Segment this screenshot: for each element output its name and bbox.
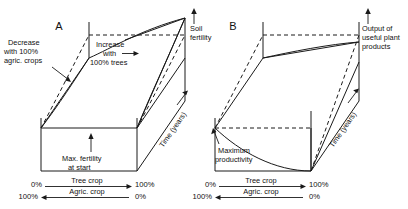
panel-a-base-line2: at start	[68, 163, 91, 172]
panel-a-increase-ridge	[125, 18, 185, 40]
panel-b-output-label-line2: useful plant	[362, 33, 400, 42]
panel-b-time-label: Time (years)	[327, 110, 358, 149]
panel-a-decrease-line3: agric. crops	[4, 56, 43, 65]
panel-a-decrease-line1: Decrease	[8, 38, 40, 47]
panel-a-up-arrow-icon-head	[191, 8, 197, 14]
figure-root: A Soil fertility Decrease with 100% agri…	[0, 0, 408, 209]
panel-b-axis-right-top-value: 100%	[309, 180, 329, 189]
panel-a-increase-leader-arrow-icon	[134, 51, 140, 56]
panel-a-decrease-leader-line	[52, 67, 69, 80]
panel-b-axis-bottom-arrow-icon	[215, 195, 221, 200]
panel-b-output-label-line3: products	[362, 42, 391, 51]
panel-a-axis-left-bottom-value: 100%	[19, 192, 39, 201]
panel-b-axis-left-top-value: 0%	[205, 180, 216, 189]
panel-b-left-depth	[215, 58, 263, 128]
panel-b: B Output of useful plant products Maximu…	[193, 8, 400, 201]
panel-b-bottom-axis: 0% Tree crop 100% Agric. crop 100% 0%	[193, 176, 329, 201]
panel-a-axis-bottom-arrow-icon	[41, 195, 47, 200]
panel-b-axis-top-arrow-icon	[301, 184, 307, 189]
panel-b-axis-right-bottom-value: 0%	[309, 192, 320, 201]
panel-a-increase-line1: Increase	[96, 40, 124, 49]
panel-b-right-hidden-dashed	[311, 35, 359, 171]
panel-b-back-panel	[263, 22, 359, 101]
panel-a-hidden-left-dashed	[41, 35, 89, 128]
panel-a-decrease-line2: with 100%	[3, 47, 39, 56]
panel-a-soil-label-line2: fertility	[190, 33, 212, 42]
panel-b-letter: B	[229, 20, 236, 32]
panel-a-axis-bottom-label: Agric. crop	[69, 187, 104, 196]
panel-a-base-line1: Max. fertility	[62, 154, 102, 163]
panel-a-axis-left-top-value: 0%	[31, 180, 42, 189]
panel-b-base-line1: Maximum	[218, 146, 250, 155]
panel-b-left-hidden-dashed	[215, 35, 263, 128]
panel-b-axis-left-bottom-value: 100%	[193, 192, 213, 201]
panel-b-base-annotation: Maximum productivity	[211, 128, 252, 164]
panel-a: A Soil fertility Decrease with 100% agri…	[3, 8, 212, 201]
panel-b-back-chord	[263, 42, 359, 58]
panel-b-output-label-line1: Output of	[362, 24, 393, 33]
panel-b-axis-top-label: Tree crop	[245, 176, 276, 185]
panel-b-base-line2: productivity	[215, 155, 253, 164]
panel-a-decrease-annotation: Decrease with 100% agric. crops	[3, 38, 71, 82]
panel-b-up-arrow-icon-head	[365, 8, 371, 14]
panel-a-increase-line2: with	[102, 49, 116, 58]
panel-a-axis-right-bottom-value: 0%	[135, 192, 146, 201]
panel-a-vertical-axis-label: Soil fertility	[190, 8, 212, 42]
panel-b-axis-bottom-label: Agric. crop	[243, 187, 278, 196]
panel-a-base-leader-arrow-icon	[88, 133, 93, 139]
panel-b-vertical-axis-label: Output of useful plant products	[362, 8, 400, 51]
panel-a-base-annotation: Max. fertility at start	[62, 133, 102, 172]
panel-a-axis-top-arrow-icon	[127, 184, 133, 189]
panel-a-depth-axis-label: Time (years)	[157, 91, 188, 150]
panel-a-increase-annotation: Increase with 100% trees	[90, 40, 139, 67]
panel-b-time-arrow-icon-shaft	[348, 91, 357, 103]
panel-a-soil-label-line1: Soil	[190, 24, 203, 33]
panel-a-axis-right-top-value: 100%	[135, 180, 155, 189]
panel-a-letter: A	[55, 20, 63, 32]
panel-a-bottom-axis: 0% Tree crop 100% Agric. crop 100% 0%	[19, 176, 155, 201]
panel-a-axis-top-label: Tree crop	[71, 176, 102, 185]
panel-a-increase-line3: 100% trees	[90, 58, 128, 67]
panel-a-time-label: Time (years)	[157, 110, 188, 149]
